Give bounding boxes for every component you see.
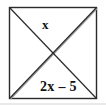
bottom-edge-strip [0, 103, 106, 105]
label-side-x: x [41, 18, 50, 31]
geometry-figure: x 2x – 5 [0, 0, 106, 105]
label-side-2x-minus-5: 2x – 5 [39, 80, 78, 94]
